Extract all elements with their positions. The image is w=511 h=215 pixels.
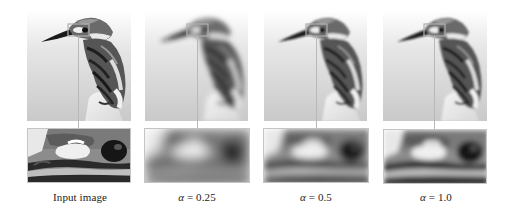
alpha-value: = 0.5 [306, 191, 332, 203]
zoom-connector-line [197, 36, 198, 128]
alpha-value: = 0.25 [184, 191, 216, 203]
zoom-crop-alpha-1.0 [383, 129, 487, 184]
zoom-crop-alpha-0.5 [263, 128, 369, 183]
bird-image-alpha-0.25 [144, 10, 248, 121]
caption-alpha-1.0: α = 1.0 [363, 191, 509, 203]
caption-text: Input image [53, 191, 107, 203]
panel-input-image: Input image [27, 0, 133, 215]
bird-image-input [27, 10, 131, 121]
zoom-crop-input [27, 128, 131, 183]
zoom-crop-alpha-0.25 [144, 128, 250, 183]
bird-image-alpha-1.0 [383, 10, 487, 121]
alpha-value: = 1.0 [426, 191, 452, 203]
zoom-connector-line [434, 36, 435, 129]
zoom-connector-line [78, 36, 79, 128]
panel-alpha-0.25: α = 0.25 [144, 0, 250, 215]
panel-alpha-1.0: α = 1.0 [383, 0, 489, 215]
zoom-connector-line [316, 36, 317, 128]
bird-image-alpha-0.5 [263, 10, 367, 121]
panel-alpha-0.5: α = 0.5 [263, 0, 369, 215]
